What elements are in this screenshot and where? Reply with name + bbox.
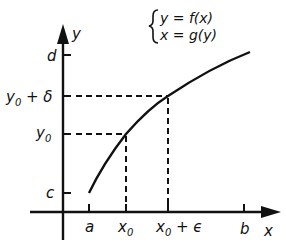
equation-brace-icon — [149, 10, 158, 43]
label-d: d — [47, 47, 57, 65]
equation-y-of-x: y = f(x) — [159, 10, 213, 26]
x-axis-arrow-icon — [261, 206, 281, 218]
label-y0-plus-delta: y0 + δ — [5, 88, 53, 108]
label-a: a — [85, 218, 94, 236]
equation-x-of-y: x = g(y) — [159, 27, 217, 43]
y-axis-label: y — [71, 25, 82, 43]
label-c: c — [46, 184, 55, 202]
label-x0: x0 — [117, 218, 133, 238]
dashed-guides — [76, 96, 168, 204]
function-curve — [89, 52, 250, 193]
x-axis-label: x — [263, 222, 273, 240]
label-x0-plus-eps: x0 + ϵ — [155, 218, 203, 238]
label-y0: y0 — [35, 124, 51, 144]
y-axis-arrow-icon — [57, 24, 69, 44]
label-b: b — [240, 220, 250, 238]
function-inverse-diagram: y x d y0 + δ y0 c a x0 x0 + ϵ b y = f(x)… — [0, 0, 286, 242]
